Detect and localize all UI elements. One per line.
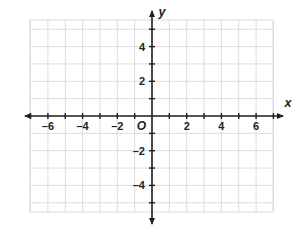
y-axis-name-label: y — [158, 5, 167, 19]
x-tick-label: –4 — [76, 120, 89, 132]
x-axis-name-label: x — [284, 96, 293, 110]
y-tick-label: –4 — [133, 179, 146, 191]
axes-group — [25, 11, 283, 224]
y-tick-label: 2 — [139, 75, 145, 87]
axis-names: xy — [158, 5, 293, 110]
coordinate-plane-figure: –6–4–224642–2–4O xy — [0, 0, 300, 232]
x-tick-label: 2 — [184, 120, 190, 132]
y-tick-label: –2 — [133, 145, 145, 157]
coordinate-grid-svg: –6–4–224642–2–4O xy — [0, 0, 300, 232]
x-tick-label: –6 — [42, 120, 54, 132]
x-tick-label: 4 — [218, 120, 225, 132]
y-tick-label: 4 — [139, 41, 146, 53]
x-tick-label: 6 — [253, 120, 259, 132]
origin-label: O — [137, 119, 147, 133]
x-tick-label: –2 — [111, 120, 123, 132]
